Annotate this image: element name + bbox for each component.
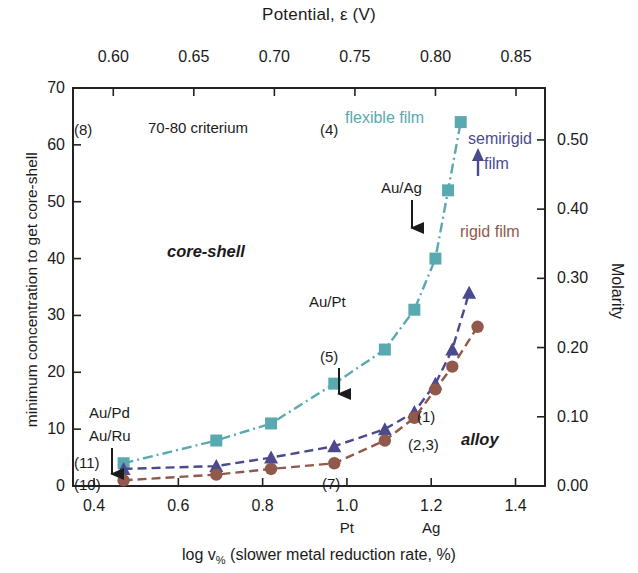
annotation-ref-11: (11)	[74, 455, 100, 470]
region-label-core-shell: core-shell	[167, 243, 245, 260]
annotation-arrows	[112, 148, 484, 474]
data-point-circle	[429, 383, 441, 395]
data-point-triangle	[462, 286, 476, 299]
annotation-ref-10: (10)	[74, 477, 101, 492]
data-point-circle	[446, 360, 458, 372]
annotation-ref-7: (7)	[322, 476, 340, 491]
region-label-alloy: alloy	[461, 431, 499, 448]
legend-label-semirigid: semirigid	[468, 131, 532, 147]
data-point-square	[379, 344, 391, 356]
figure-container: Potential, ε (V) log v% (slower metal re…	[0, 0, 638, 573]
data-point-square	[210, 435, 222, 447]
annotation-ref-23: (2,3)	[408, 437, 439, 452]
data-point-circle	[471, 321, 483, 333]
annotation-ref-1: (1)	[417, 409, 435, 424]
annotation-criterium: 70-80 criterium	[148, 120, 248, 135]
data-point-square	[442, 184, 454, 196]
data-point-circle	[117, 474, 129, 486]
plot-border	[73, 88, 545, 486]
data-point-triangle	[264, 451, 278, 464]
annotation-ref-8: (8)	[74, 122, 92, 137]
annotation-au-pd: Au/Pd	[89, 405, 130, 420]
data-point-circle	[328, 457, 340, 469]
data-series-layer	[117, 116, 484, 486]
data-point-triangle	[445, 343, 459, 356]
data-point-triangle	[378, 422, 392, 435]
data-point-circle	[265, 463, 277, 475]
series-line-flexible-film	[124, 122, 461, 463]
legend-label-semirigid-film: film	[484, 156, 509, 172]
data-point-square	[265, 417, 277, 429]
axis-ticks	[73, 88, 545, 486]
data-point-circle	[210, 468, 222, 480]
data-point-circle	[379, 434, 391, 446]
data-point-square	[455, 116, 467, 128]
data-point-square	[429, 253, 441, 265]
annotation-ref-4: (4)	[320, 122, 338, 137]
annotation-au-ag: Au/Ag	[381, 180, 422, 195]
plot-frame	[73, 88, 545, 486]
annotation-au-pt: Au/Pt	[309, 294, 346, 309]
legend-label-flexible-film: flexible film	[345, 110, 424, 126]
annotation-au-ru: Au/Ru	[89, 428, 131, 443]
annotation-ref-5: (5)	[320, 349, 338, 364]
data-point-square	[408, 304, 420, 316]
legend-label-rigid-film: rigid film	[460, 224, 520, 240]
